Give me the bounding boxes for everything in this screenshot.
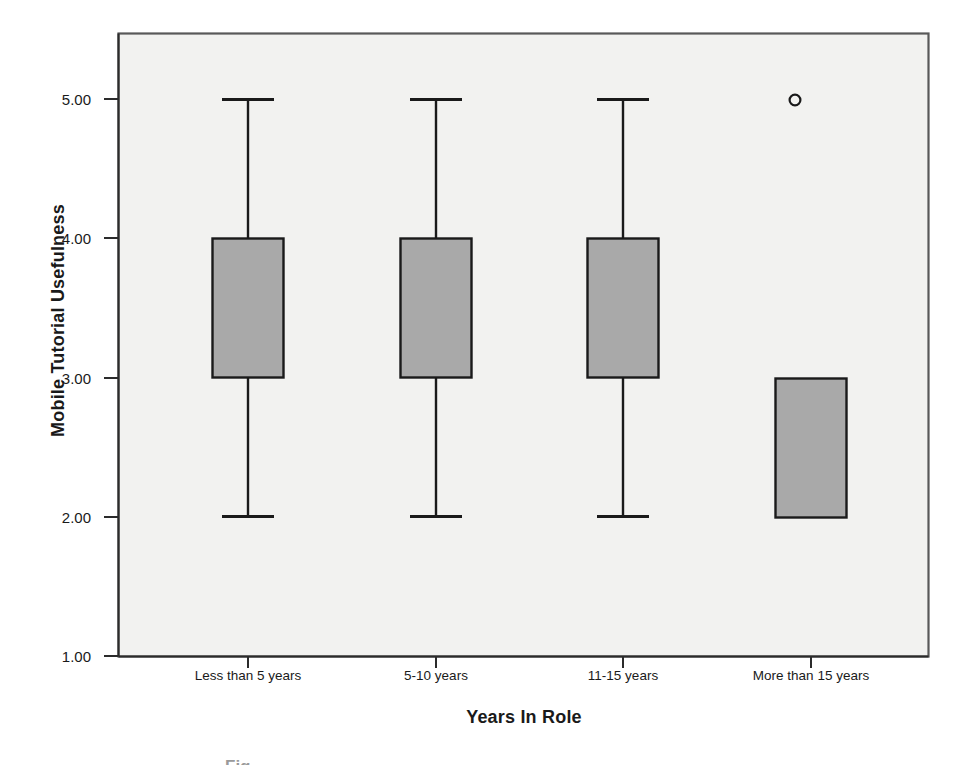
x-tick-label-5-10-years: 5-10 years bbox=[341, 668, 531, 683]
figure-caption-partial: Fig. bbox=[225, 757, 645, 765]
box-iqr-2 bbox=[401, 239, 472, 378]
boxplot-figure: Mobile Tutorial Usefulness 5.00 4.00 3.0… bbox=[0, 0, 953, 765]
y-tick-label-4: 4.00 bbox=[21, 230, 91, 247]
x-axis bbox=[119, 656, 929, 668]
x-tick-label-11-15-years: 11-15 years bbox=[528, 668, 718, 683]
box-iqr-4 bbox=[776, 379, 847, 518]
box-iqr-3 bbox=[588, 239, 659, 378]
y-tick-label-2: 2.00 bbox=[21, 509, 91, 526]
boxplot-canvas bbox=[0, 0, 953, 765]
y-axis-title: Mobile Tutorial Usefulness bbox=[48, 171, 69, 471]
y-tick-label-1: 1.00 bbox=[21, 648, 91, 665]
y-axis bbox=[104, 34, 119, 657]
x-axis-title: Years In Role bbox=[118, 707, 930, 728]
x-tick-label-more-than-15-years: More than 15 years bbox=[716, 668, 906, 683]
x-tick-label-less-than-5-years: Less than 5 years bbox=[153, 668, 343, 683]
y-tick-label-5: 5.00 bbox=[21, 91, 91, 108]
box-iqr-1 bbox=[213, 239, 284, 378]
y-tick-label-3: 3.00 bbox=[21, 370, 91, 387]
